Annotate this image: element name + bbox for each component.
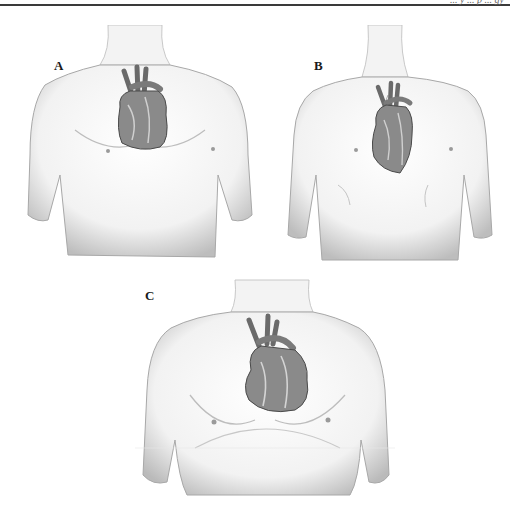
panel-label-c: C bbox=[145, 288, 154, 304]
header-rule bbox=[0, 4, 510, 6]
panel-b: B bbox=[278, 25, 498, 265]
torso-c-illustration bbox=[135, 270, 395, 520]
panel-label-a: A bbox=[54, 58, 63, 74]
panel-c: C bbox=[135, 270, 395, 520]
panel-a: A bbox=[20, 25, 260, 265]
panel-label-b: B bbox=[314, 58, 323, 74]
torso-b-illustration bbox=[278, 25, 498, 265]
running-head: ... y ... p ... gy bbox=[450, 0, 504, 5]
